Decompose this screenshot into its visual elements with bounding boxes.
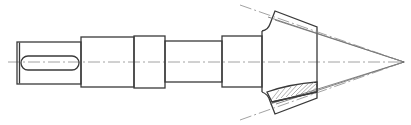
shaft-neck <box>165 41 222 82</box>
keyway-slot <box>21 56 79 70</box>
shaft-gear-seat <box>222 36 262 87</box>
bevel-gear-shaft-drawing <box>0 0 411 125</box>
shaft-keyed-end <box>17 42 81 84</box>
bevel-gear <box>240 5 404 120</box>
